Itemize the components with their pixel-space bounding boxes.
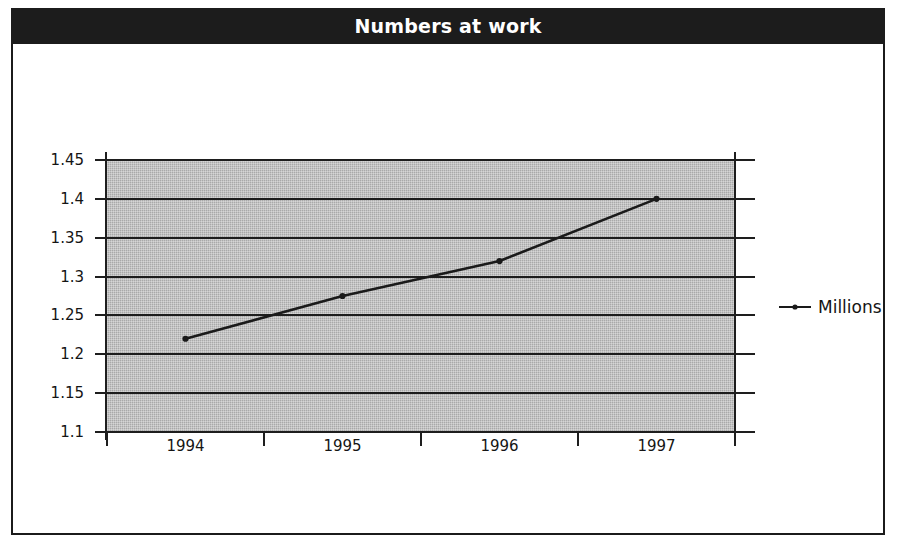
chart-legend: Millions xyxy=(778,297,882,317)
y-axis-tick-label: 1.45 xyxy=(22,151,84,169)
y-axis-tick-mark xyxy=(735,159,755,161)
x-axis-line xyxy=(95,431,755,433)
y-axis-tick-label: 1.25 xyxy=(22,306,84,324)
y-axis-tick-mark xyxy=(735,353,755,355)
gridline xyxy=(95,353,755,355)
y-axis-tick-mark xyxy=(735,431,755,433)
y-axis-tick-mark xyxy=(735,198,755,200)
chart-title-banner: Numbers at work xyxy=(11,8,885,44)
y-axis-tick-label: 1.35 xyxy=(22,229,84,247)
x-axis-tick-label: 1997 xyxy=(577,437,737,455)
chart-figure: Numbers at work 1.451.41.351.31.251.21.1… xyxy=(0,0,899,550)
gridline xyxy=(95,392,755,394)
y-axis-line xyxy=(105,152,107,440)
y-axis-tick-labels: 1.451.41.351.31.251.21.151.1 xyxy=(22,0,84,550)
y-axis-tick-label: 1.2 xyxy=(22,345,84,363)
x-axis-tick-label: 1994 xyxy=(106,437,266,455)
y-axis-right-line xyxy=(734,152,736,440)
y-axis-tick-mark xyxy=(95,353,107,355)
y-axis-tick-mark xyxy=(95,198,107,200)
y-axis-tick-mark xyxy=(95,431,107,433)
gridline xyxy=(95,198,755,200)
line-marker-icon xyxy=(778,301,812,313)
gridline xyxy=(95,276,755,278)
gridline xyxy=(95,159,755,161)
page-title: Numbers at work xyxy=(354,15,541,37)
y-axis-tick-mark xyxy=(735,276,755,278)
x-axis-tick-label: 1995 xyxy=(263,437,423,455)
legend-label-millions: Millions xyxy=(818,297,882,317)
y-axis-tick-mark xyxy=(95,314,107,316)
y-axis-tick-mark xyxy=(735,392,755,394)
y-axis-tick-label: 1.15 xyxy=(22,384,84,402)
y-axis-tick-label: 1.3 xyxy=(22,268,84,286)
y-axis-tick-mark xyxy=(95,276,107,278)
y-axis-tick-mark xyxy=(735,314,755,316)
y-axis-tick-mark xyxy=(95,237,107,239)
y-axis-tick-mark xyxy=(95,159,107,161)
y-axis-tick-label: 1.1 xyxy=(22,423,84,441)
y-axis-tick-mark xyxy=(735,237,755,239)
y-axis-tick-label: 1.4 xyxy=(22,190,84,208)
gridline xyxy=(95,237,755,239)
gridline xyxy=(95,314,755,316)
y-axis-tick-mark xyxy=(95,392,107,394)
x-axis-tick-label: 1996 xyxy=(420,437,580,455)
